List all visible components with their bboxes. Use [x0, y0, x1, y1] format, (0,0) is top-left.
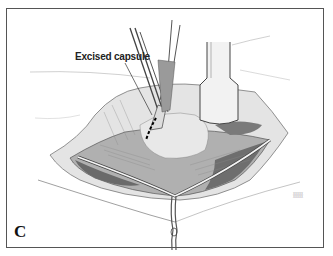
surgical-illustration — [0, 0, 333, 256]
artist-signature: XXXXX XXXXX — [293, 193, 303, 199]
panel-label: C — [14, 222, 26, 242]
annotation-label-excised-capsule: Excised capsule — [75, 51, 150, 62]
